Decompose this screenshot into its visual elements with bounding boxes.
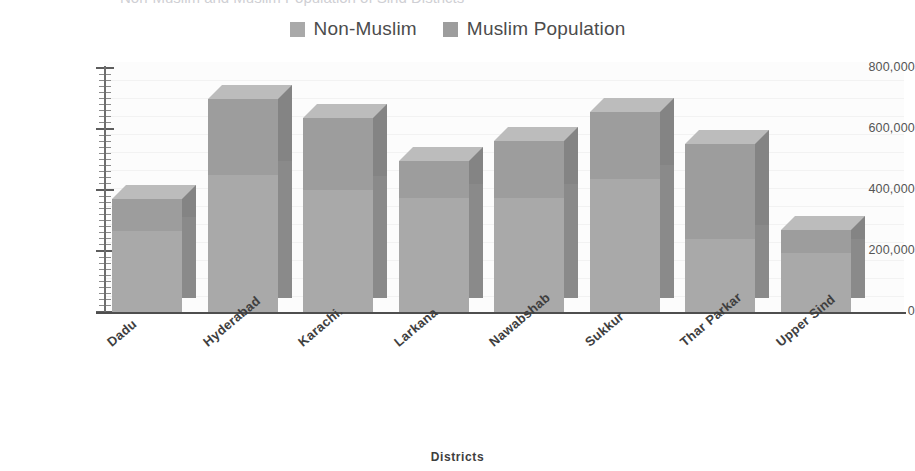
bar-segment-muslim[interactable]: [590, 179, 660, 312]
bar-segment-muslim[interactable]: [208, 175, 278, 312]
bar-group[interactable]: [112, 0, 196, 471]
bar-top-face: [590, 98, 674, 112]
bar-side-face-muslim: [469, 184, 483, 298]
bar-segment-non-muslim[interactable]: [303, 118, 373, 190]
bar-top-face: [208, 85, 292, 99]
bar-group[interactable]: [303, 0, 387, 471]
bar-group[interactable]: [781, 0, 865, 471]
bar-group[interactable]: [590, 0, 674, 471]
bar-side-face-muslim: [182, 217, 196, 298]
bar-top-face: [303, 104, 387, 118]
bar-segment-muslim[interactable]: [494, 198, 564, 312]
bar-segment-muslim[interactable]: [303, 190, 373, 312]
chart-plot-area: 0200,000400,000600,000800,000 DaduHydera…: [0, 0, 915, 471]
bar-segment-muslim[interactable]: [399, 198, 469, 312]
bar-top-face: [399, 147, 483, 161]
x-axis-title: Districts: [0, 450, 915, 464]
bar-group[interactable]: [494, 0, 578, 471]
bar-side-face-muslim: [755, 225, 769, 298]
bar-segment-muslim[interactable]: [112, 231, 182, 312]
bar-segment-non-muslim[interactable]: [781, 230, 851, 253]
bar-side-face-muslim: [660, 165, 674, 298]
bar-group[interactable]: [399, 0, 483, 471]
bar-top-face: [685, 130, 769, 144]
bar-side-face-muslim: [373, 176, 387, 298]
bar-segment-non-muslim[interactable]: [494, 141, 564, 197]
bar-side-face-non-muslim: [755, 130, 769, 225]
bar-side-face-muslim: [278, 161, 292, 298]
bar-top-face: [112, 185, 196, 199]
bar-segment-non-muslim[interactable]: [590, 112, 660, 179]
bar-segment-non-muslim[interactable]: [399, 161, 469, 198]
bar-top-face: [494, 127, 578, 141]
bar-segment-non-muslim[interactable]: [208, 99, 278, 175]
y-axis-line: [104, 66, 106, 314]
bar-segment-non-muslim[interactable]: [685, 144, 755, 239]
bar-side-face-muslim: [564, 184, 578, 298]
bar-group[interactable]: [685, 0, 769, 471]
bar-side-face-muslim: [851, 239, 865, 298]
bar-group[interactable]: [208, 0, 292, 471]
bar-top-face: [781, 216, 865, 230]
bar-segment-non-muslim[interactable]: [112, 199, 182, 231]
